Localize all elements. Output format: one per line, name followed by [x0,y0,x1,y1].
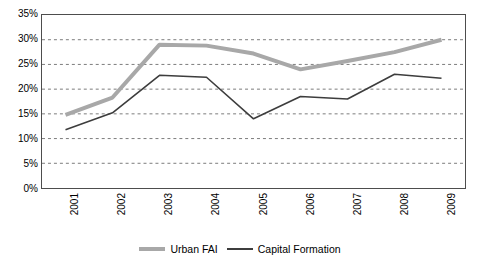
y-tick-label: 0% [4,184,38,194]
legend-swatch-capital-formation-icon [227,248,253,250]
x-axis: 200120022003200420052006200720082009 [41,190,466,236]
plot-svg [42,15,465,188]
y-tick-label: 25% [4,59,38,69]
chart-legend: Urban FAI Capital Formation [0,243,480,255]
y-axis: 35%30%25%20%15%10%5%0% [0,0,38,268]
y-tick-label: 5% [4,159,38,169]
series-line [65,74,441,129]
y-tick-label: 15% [4,109,38,119]
legend-item-urban-fai[interactable]: Urban FAI [139,243,217,255]
x-tick-label: 2005 [259,193,269,215]
x-tick-label: 2006 [306,193,316,215]
x-tick-label: 2007 [353,193,363,215]
y-tick-label: 35% [4,9,38,19]
legend-label-capital-formation: Capital Formation [258,243,341,255]
x-tick-label: 2002 [117,193,127,215]
chart-container: 35%30%25%20%15%10%5%0% 20012002200320042… [0,0,480,268]
legend-swatch-urban-fai-icon [139,247,165,251]
y-tick-label: 30% [4,34,38,44]
x-tick-label: 2003 [164,193,174,215]
plot-area [41,14,466,189]
legend-item-capital-formation[interactable]: Capital Formation [227,243,341,255]
x-tick-label: 2001 [70,193,80,215]
x-tick-label: 2008 [400,193,410,215]
legend-label-urban-fai: Urban FAI [170,243,217,255]
series-lines [65,40,441,130]
y-tick-label: 10% [4,134,38,144]
x-tick-label: 2004 [211,193,221,215]
series-line [65,40,441,115]
y-tick-label: 20% [4,84,38,94]
x-tick-label: 2009 [447,193,457,215]
